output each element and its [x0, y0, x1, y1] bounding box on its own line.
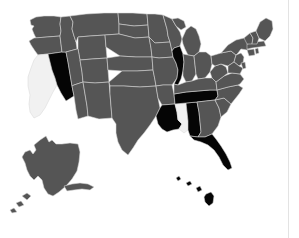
- right-gutter: [289, 0, 299, 238]
- state-WY[interactable]: Wyoming: [78, 35, 107, 60]
- us-map-screen: Washington Oregon California Nevada Idah…: [0, 0, 299, 238]
- us-choropleth-map[interactable]: Washington Oregon California Nevada Idah…: [0, 0, 288, 238]
- state-KS[interactable]: Kansas: [107, 56, 153, 71]
- map-panel: Washington Oregon California Nevada Idah…: [0, 0, 288, 238]
- state-RI[interactable]: Rhode Island: [255, 48, 259, 54]
- state-WA[interactable]: Washington: [30, 16, 61, 38]
- state-MO[interactable]: Missouri: [152, 57, 178, 86]
- state-CO[interactable]: Colorado: [80, 58, 109, 83]
- state-ND[interactable]: North Dakota: [118, 13, 148, 26]
